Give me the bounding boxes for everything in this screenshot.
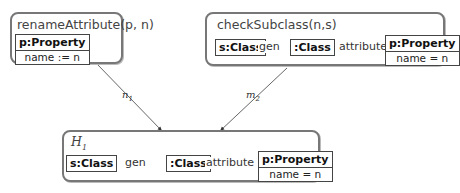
node-name: :Class [291, 40, 334, 55]
node-attribute: name := n [16, 50, 89, 64]
node-anon-class: :Class [290, 39, 335, 56]
edge-label-attribute: attribute [205, 157, 255, 169]
graph-title: H1 [71, 134, 87, 152]
node-attribute: name = n [386, 51, 459, 65]
node-name: :Class [167, 156, 210, 171]
rule-title: renameAttribute(p, n) [17, 17, 154, 32]
node-name: p:Property [16, 35, 89, 50]
node-name: p:Property [259, 152, 332, 167]
rule-rename-attribute: renameAttribute(p, n) p:Property name :=… [10, 12, 123, 64]
node-s-class: s:Class [66, 155, 117, 172]
node-name: p:Property [386, 36, 459, 51]
edge-label-gen: gen [124, 157, 147, 169]
rule-title: checkSubclass(n,s) [217, 17, 337, 32]
node-name: s:Class [67, 156, 116, 171]
node-p-property: p:Property name := n [15, 34, 90, 65]
node-p-property: p:Property name = n [385, 35, 460, 66]
node-attribute: name = n [259, 167, 332, 181]
morphism-label-n1: n1 [122, 89, 133, 103]
edge-label-gen: gen [258, 41, 281, 53]
morphism-label-m2: m2 [246, 89, 260, 103]
edge-label-attribute: attribute [338, 41, 388, 53]
node-p-property: p:Property name = n [258, 151, 333, 182]
